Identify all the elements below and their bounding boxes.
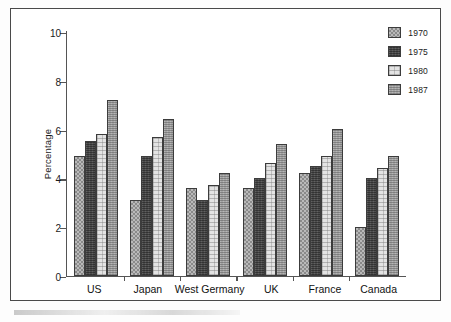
bar-group — [124, 32, 180, 276]
bar[interactable] — [310, 166, 321, 276]
bar[interactable] — [130, 200, 141, 276]
x-axis-category-labels: USJapanWest GermanyUKFranceCanada — [67, 283, 405, 295]
bar[interactable] — [107, 100, 118, 276]
bar[interactable] — [321, 156, 332, 276]
legend-label: 1987 — [408, 85, 428, 95]
y-axis-title: Percentage — [42, 129, 53, 180]
bar[interactable] — [152, 137, 163, 276]
y-tick-label: 8 — [55, 76, 61, 87]
bar[interactable] — [276, 144, 287, 276]
bar[interactable] — [163, 119, 174, 275]
legend-label: 1970 — [408, 28, 428, 38]
x-tick-mark — [180, 276, 181, 281]
bar[interactable] — [141, 156, 152, 276]
x-tick-mark — [124, 276, 125, 281]
y-tick-label: 10 — [50, 28, 61, 39]
bar[interactable] — [85, 141, 96, 275]
legend-label: 1980 — [408, 66, 428, 76]
bar[interactable] — [366, 178, 377, 276]
scan-artifact — [14, 310, 240, 315]
chart-frame: 1970197519801987 Percentage 0246810 USJa… — [10, 8, 441, 301]
bar-groups — [67, 32, 405, 276]
bar[interactable] — [208, 185, 219, 275]
plot-area: Percentage 0246810 USJapanWest GermanyUK… — [66, 31, 396, 277]
x-tick-mark — [349, 276, 350, 281]
bar[interactable] — [197, 200, 208, 276]
bar-group — [349, 32, 405, 276]
bar[interactable] — [265, 163, 276, 275]
bar-group — [180, 32, 236, 276]
bar[interactable] — [186, 188, 197, 276]
y-tick-label: 6 — [55, 125, 61, 136]
x-category-label-west-germany: West Germany — [175, 283, 245, 295]
bar[interactable] — [74, 156, 85, 276]
bar[interactable] — [388, 156, 399, 276]
x-category-label-france: France — [298, 283, 352, 295]
bar[interactable] — [254, 178, 265, 276]
bar[interactable] — [219, 173, 230, 275]
y-tick-label: 0 — [55, 272, 61, 283]
bar[interactable] — [377, 168, 388, 275]
x-category-label-japan: Japan — [121, 283, 175, 295]
chart-page: 1970197519801987 Percentage 0246810 USJa… — [0, 0, 451, 322]
x-tick-mark — [236, 276, 237, 281]
bar-group — [293, 32, 349, 276]
bar[interactable] — [96, 134, 107, 276]
y-tick-label: 2 — [55, 223, 61, 234]
x-category-label-us: US — [67, 283, 121, 295]
x-tick-mark — [293, 276, 294, 281]
bar[interactable] — [299, 173, 310, 275]
y-tick-label: 4 — [55, 174, 61, 185]
bar-group — [236, 32, 292, 276]
bar[interactable] — [355, 227, 366, 276]
bar[interactable] — [243, 188, 254, 276]
x-category-label-canada: Canada — [352, 283, 406, 295]
bar-group — [67, 32, 123, 276]
x-category-label-uk: UK — [245, 283, 299, 295]
legend-label: 1975 — [408, 47, 428, 57]
bar[interactable] — [332, 129, 343, 275]
